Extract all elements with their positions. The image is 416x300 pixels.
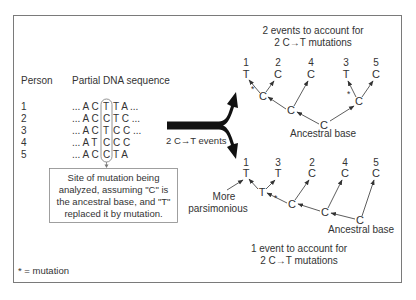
bottom-tree-caption: 1 event to account for [251,243,348,254]
root-label: Ancestral base [328,224,395,235]
header-sequence: Partial DNA sequence [72,75,170,86]
tree-edge [331,213,355,219]
split-arrow-label: 2 C→T events [166,135,227,146]
top-tree-title: 2 events to account for [262,25,364,36]
site-pointer-arrowhead [105,165,109,169]
leaf-base: C [372,68,380,80]
tree-edge [249,179,258,189]
site-callout: Site of mutation being analyzed, assumin… [50,169,178,223]
sequence-site: C [103,137,110,148]
person-number: 5 [21,149,27,160]
person-number: 1 [21,101,27,112]
leaf-number: 5 [373,57,379,68]
internal-node: T [259,186,266,198]
parsimonious-label: parsimonious [188,203,247,214]
leaf-base: C [274,68,282,80]
split-arrow: 2 C→T events [166,92,238,159]
sequence-suffix: T C ... [113,113,140,124]
mutation-mark: * [347,89,351,99]
leaf-number: 1 [243,57,249,68]
parsimonious-pointer [227,180,243,190]
tree-edge [268,97,286,109]
mutation-mark: * [251,84,255,94]
sequence-suffix: C C [113,137,130,148]
leaf-base: C [341,167,349,179]
footnote-mutation: * = mutation [18,265,69,276]
tree-edge [266,180,275,189]
sequence-prefix: ... A C [72,101,99,112]
sequence-prefix: ... A T [72,137,97,148]
sequence-row: 4 ... A T C C C [21,137,130,148]
tree-edge [328,180,342,208]
tree-edge [330,106,354,121]
sequence-row: 3 ... A C T C C ... [21,125,141,136]
sequence-suffix: C C ... [113,125,141,136]
person-number: 3 [21,125,27,136]
top-tree: 2 events to account for 2 C→T mutations … [243,25,380,139]
tree-edge [297,112,319,124]
leaf-number: 3 [343,57,349,68]
top-tree-title: 2 C→T mutations [274,37,352,48]
leaf-number: 2 [275,57,281,68]
mutation-parsimony-diagram: Person Partial DNA sequence 1 ... A C T … [0,0,416,300]
bottom-tree-caption: 2 C→T mutations [260,255,338,266]
sequence-suffix: T A [113,149,128,160]
header-person: Person [21,75,53,86]
sequence-table: Person Partial DNA sequence 1 ... A C T … [21,75,170,168]
leaf-base: T [343,68,350,80]
person-number: 4 [21,137,27,148]
parsimonious-label: More [213,191,236,202]
sequence-site: T [103,125,109,136]
leaf-number: 4 [308,57,314,68]
callout-line: Site of mutation being [68,172,160,183]
tree-edge [266,81,274,92]
leaf-base: T [243,167,250,179]
callout-line: analyzed, assuming "C" is [59,184,169,195]
bottom-tree: 1 3 2 4 5 T T C C C T C C C * More parsi… [188,157,394,266]
sequence-site: C [103,113,110,124]
callout-line: the ancestral base, and "T" [57,196,171,207]
tree-edge [295,180,309,200]
leaf-base: C [307,68,315,80]
tree-edge [362,81,373,97]
tree-edge [294,81,308,106]
callout-line: replaced it by mutation. [64,208,162,219]
sequence-site: C [103,149,110,160]
sequence-row: 2 ... A C C T C ... [21,113,140,124]
leaf-base: C [372,167,380,179]
sequence-prefix: ... A C [72,113,99,124]
split-arrow-shape [167,92,238,159]
sequence-site: T [103,101,109,112]
leaf-base: T [243,68,250,80]
tree-edge [362,180,374,216]
sequence-row: 1 ... A C T T A ... [21,101,138,112]
leaf-base: C [308,167,316,179]
sequence-prefix: ... A C [72,149,99,160]
person-number: 2 [21,113,27,124]
sequence-suffix: T A ... [113,101,138,112]
leaf-base: T [275,167,282,179]
root-label: Ancestral base [290,128,357,139]
tree-edge [298,204,320,211]
sequence-prefix: ... A C [72,125,99,136]
